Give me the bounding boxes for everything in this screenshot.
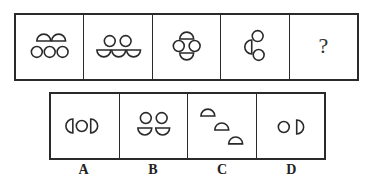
half-circle-left-icon xyxy=(66,119,73,133)
half-circle-up-icon xyxy=(37,34,51,41)
circle-icon xyxy=(253,49,264,60)
circle-icon xyxy=(140,113,151,124)
half-circle-down-icon xyxy=(97,50,111,57)
half-circle-up-icon xyxy=(201,109,215,116)
sequence-panel-5-answer: ? xyxy=(290,15,357,79)
sequence-panel-4 xyxy=(221,15,289,79)
half-circle-down-icon xyxy=(155,128,169,135)
circle-icon xyxy=(31,47,42,58)
half-circle-down-icon xyxy=(180,53,194,60)
option-label-b: B xyxy=(118,162,187,178)
half-circle-up-icon xyxy=(52,34,66,41)
half-circle-down-icon xyxy=(137,128,151,135)
option-b[interactable] xyxy=(120,94,189,158)
half-circle-down-icon xyxy=(127,50,141,57)
circle-icon xyxy=(278,122,289,133)
option-a[interactable] xyxy=(51,94,120,158)
shapes-option-b xyxy=(120,94,188,158)
circle-icon xyxy=(156,113,167,124)
circle-icon xyxy=(44,47,55,58)
shapes-figure-2 xyxy=(84,15,151,79)
shapes-option-c xyxy=(188,94,256,158)
sequence-panel-3 xyxy=(153,15,221,79)
half-circle-right-icon xyxy=(296,120,303,134)
circle-icon xyxy=(189,41,200,52)
question-mark: ? xyxy=(290,33,357,59)
shapes-option-a xyxy=(51,94,119,158)
circle-icon xyxy=(76,121,87,132)
half-circle-up-icon xyxy=(215,123,229,130)
options-row xyxy=(49,92,326,160)
circle-icon xyxy=(57,47,68,58)
half-circle-up-icon xyxy=(229,137,243,144)
option-c[interactable] xyxy=(188,94,257,158)
option-label-a: A xyxy=(49,162,118,178)
half-circle-right-icon xyxy=(91,119,98,133)
option-labels: A B C D xyxy=(49,162,326,178)
shapes-option-d xyxy=(257,94,325,158)
option-d[interactable] xyxy=(257,94,325,158)
circle-icon xyxy=(252,31,263,42)
circle-icon xyxy=(173,41,184,52)
shapes-figure-3 xyxy=(153,15,220,79)
circle-icon xyxy=(121,36,132,47)
half-circle-down-icon xyxy=(112,50,126,57)
option-label-d: D xyxy=(257,162,326,178)
half-circle-up-icon xyxy=(180,32,194,39)
sequence-panel-2 xyxy=(84,15,152,79)
shapes-figure-4 xyxy=(221,15,288,79)
shapes-figure-1 xyxy=(16,15,83,79)
half-circle-left-icon xyxy=(245,40,252,54)
option-label-c: C xyxy=(188,162,257,178)
circle-icon xyxy=(105,36,116,47)
sequence-row: ? xyxy=(14,13,359,81)
sequence-panel-1 xyxy=(16,15,84,79)
